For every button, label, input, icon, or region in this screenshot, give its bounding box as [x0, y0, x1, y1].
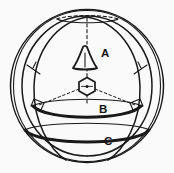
- label-c: C: [104, 135, 112, 147]
- sphere-diagram-figure: A B C: [0, 0, 174, 173]
- label-a: A: [101, 47, 109, 59]
- label-b: B: [99, 103, 107, 115]
- diagram-canvas: A B C: [0, 0, 174, 173]
